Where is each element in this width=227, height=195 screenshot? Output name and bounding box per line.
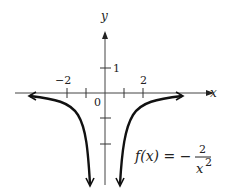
x-axis-label: x [210, 86, 217, 100]
y-axis-label: y [100, 9, 108, 23]
function-numerator: 2 [199, 143, 206, 156]
function-denominator: x [196, 161, 204, 176]
y-tick-label-1: 1 [113, 62, 120, 75]
function-label: f(x) = − 2 x 2 [134, 143, 212, 176]
curve-left-branch [29, 92, 94, 186]
curve-right-branch [116, 92, 183, 186]
x-tick-label-neg2: −2 [55, 74, 71, 87]
function-lhs: f(x) = − [134, 148, 191, 164]
function-graph: y x −2 2 1 0 f(x) = − 2 x 2 [0, 0, 227, 195]
x-tick-label-2: 2 [140, 74, 147, 87]
origin-label: 0 [94, 96, 101, 109]
function-exponent: 2 [205, 156, 212, 169]
